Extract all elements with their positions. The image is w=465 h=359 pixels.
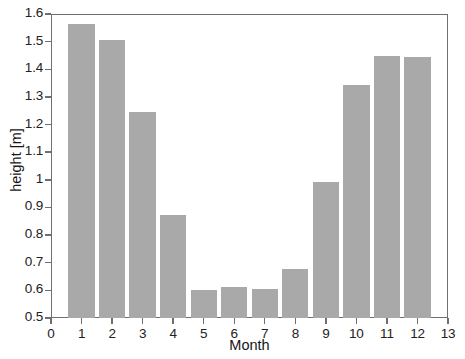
y-tick-label: 1.6 [25, 5, 43, 20]
x-tick-mark [142, 318, 143, 324]
y-axis-title: height [m] [8, 100, 24, 220]
x-tick-mark [264, 318, 265, 324]
y-tick-mark [45, 234, 51, 235]
y-tick-label: 0.9 [25, 198, 43, 213]
x-tick-mark [172, 318, 173, 324]
y-tick-mark [45, 13, 51, 14]
x-tick-mark [447, 318, 448, 324]
x-tick-mark [81, 318, 82, 324]
y-tick-mark [45, 41, 51, 42]
y-tick-mark [45, 262, 51, 263]
bar-month-7 [252, 289, 278, 318]
x-tick-mark [50, 318, 51, 324]
y-tick-mark [45, 290, 51, 291]
y-tick-label: 1.4 [25, 60, 43, 75]
bar-month-5 [191, 290, 217, 318]
y-tick-label: 1.5 [25, 33, 43, 48]
bar-month-9 [313, 182, 339, 318]
y-tick-label: 0.6 [25, 281, 43, 296]
y-tick-label: 1.3 [25, 88, 43, 103]
x-tick-mark [234, 318, 235, 324]
bars-layer [51, 14, 448, 318]
bar-month-11 [374, 56, 400, 318]
y-tick-label: 0.8 [25, 226, 43, 241]
x-tick-mark [325, 318, 326, 324]
y-tick-mark [45, 179, 51, 180]
y-tick-label: 0.7 [25, 254, 43, 269]
x-tick-mark [386, 318, 387, 324]
y-tick-mark [45, 151, 51, 152]
y-tick-label: 1.2 [25, 116, 43, 131]
x-tick-mark [417, 318, 418, 324]
y-tick-mark [45, 124, 51, 125]
y-tick-mark [45, 207, 51, 208]
y-tick-label: 1.1 [25, 143, 43, 158]
bar-month-6 [221, 287, 247, 318]
bar-chart: 0.50.60.70.80.911.11.21.31.41.51.6 01234… [0, 0, 465, 359]
bar-month-4 [160, 215, 186, 318]
y-tick-mark [45, 96, 51, 97]
bar-month-8 [282, 269, 308, 318]
x-tick-mark [203, 318, 204, 324]
y-tick-mark [45, 69, 51, 70]
bar-month-10 [343, 85, 369, 318]
bar-month-3 [129, 112, 155, 318]
x-tick-mark [111, 318, 112, 324]
x-tick-mark [295, 318, 296, 324]
x-tick-mark [356, 318, 357, 324]
x-axis-title: Month [51, 337, 448, 353]
y-tick-label: 1 [36, 171, 43, 186]
bar-month-2 [99, 40, 125, 318]
bar-month-12 [404, 57, 430, 318]
bar-month-1 [68, 24, 94, 318]
